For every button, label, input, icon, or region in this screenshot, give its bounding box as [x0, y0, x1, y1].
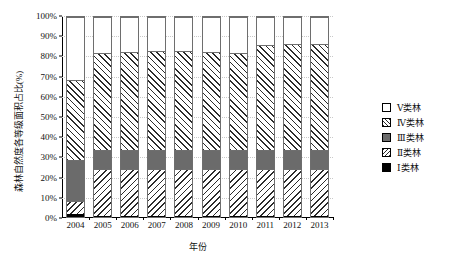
legend-swatch-s3	[382, 133, 391, 142]
bar-column[interactable]	[174, 16, 193, 218]
legend-swatch-s1	[382, 163, 391, 172]
bar-segment-s5	[121, 17, 138, 52]
bar-segment-s3	[148, 150, 165, 169]
legend-item[interactable]: Ⅴ类林	[382, 100, 424, 114]
bar-segment-s5	[67, 17, 84, 80]
stacked-bar-chart: 森林自然度各等级面积占比(%) 0%10%20%30%40%50%60%70%8…	[0, 0, 461, 279]
x-tick-label: 2008	[175, 220, 193, 230]
bar-segment-s1	[257, 216, 274, 217]
x-tick-mark	[225, 217, 226, 220]
x-tick-label: 2013	[310, 220, 328, 230]
x-tick-mark	[198, 217, 199, 220]
bar-column[interactable]	[256, 16, 275, 218]
bar-segment-s1	[94, 216, 111, 217]
x-tick-mark	[252, 217, 253, 220]
x-tick-label: 2012	[283, 220, 301, 230]
bar-series-group	[62, 16, 333, 218]
bar-segment-s3	[230, 150, 247, 169]
legend-label: Ⅴ类林	[397, 101, 422, 114]
bar-segment-s1	[175, 216, 192, 217]
bar-segment-s5	[148, 17, 165, 51]
legend-item[interactable]: Ⅰ类林	[382, 160, 424, 174]
x-tick-label: 2009	[202, 220, 220, 230]
legend-label: Ⅳ类林	[397, 116, 424, 129]
plot-area: 0%10%20%30%40%50%60%70%80%90%100% 200420…	[62, 16, 333, 218]
bar-segment-s4	[175, 51, 192, 150]
bar-segment-s5	[230, 17, 247, 53]
legend-label: Ⅱ类林	[397, 146, 421, 159]
bar-column[interactable]	[202, 16, 221, 218]
chart-legend: Ⅴ类林Ⅳ类林Ⅲ类林Ⅱ类林Ⅰ类林	[382, 100, 424, 175]
bar-column[interactable]	[93, 16, 112, 218]
bar-segment-s4	[311, 44, 328, 150]
bar-segment-s2	[148, 169, 165, 216]
y-axis-title: 森林自然度各等级面积占比(%)	[12, 22, 25, 242]
x-tick-label: 2004	[67, 220, 85, 230]
bar-segment-s3	[121, 150, 138, 169]
bar-segment-s4	[284, 44, 301, 150]
bar-segment-s4	[121, 52, 138, 150]
x-tick-label: 2010	[229, 220, 247, 230]
bar-segment-s4	[148, 51, 165, 150]
bar-segment-s5	[94, 17, 111, 53]
bar-segment-s5	[203, 17, 220, 52]
x-tick-mark	[170, 217, 171, 220]
bar-segment-s1	[121, 216, 138, 217]
bar-column[interactable]	[310, 16, 329, 218]
legend-swatch-s5	[382, 103, 391, 112]
bar-segment-s2	[230, 169, 247, 216]
x-tick-mark	[143, 217, 144, 220]
bar-segment-s2	[94, 169, 111, 216]
bar-segment-s3	[311, 150, 328, 169]
x-tick-mark	[306, 217, 307, 220]
bar-segment-s5	[175, 17, 192, 51]
bar-segment-s2	[311, 169, 328, 216]
bar-column[interactable]	[120, 16, 139, 218]
legend-label: Ⅰ类林	[397, 161, 419, 174]
x-tick-mark	[89, 217, 90, 220]
bar-segment-s1	[230, 216, 247, 217]
bar-column[interactable]	[283, 16, 302, 218]
x-tick-label: 2007	[148, 220, 166, 230]
x-tick-mark	[333, 217, 334, 220]
x-tick-label: 2006	[121, 220, 139, 230]
bar-segment-s2	[175, 169, 192, 216]
bar-segment-s2	[257, 169, 274, 216]
bar-segment-s5	[284, 17, 301, 44]
x-tick-mark	[116, 217, 117, 220]
legend-item[interactable]: Ⅲ类林	[382, 130, 424, 144]
bar-column[interactable]	[66, 16, 85, 218]
bar-segment-s3	[284, 150, 301, 169]
bar-segment-s4	[67, 80, 84, 160]
legend-label: Ⅲ类林	[397, 131, 424, 144]
bar-segment-s2	[203, 169, 220, 216]
legend-swatch-s4	[382, 118, 391, 127]
bar-segment-s2	[67, 201, 84, 214]
x-tick-label: 2005	[94, 220, 112, 230]
x-tick-mark	[279, 217, 280, 220]
bar-column[interactable]	[147, 16, 166, 218]
bar-column[interactable]	[229, 16, 248, 218]
bar-segment-s5	[257, 17, 274, 45]
bar-segment-s1	[203, 216, 220, 217]
bar-segment-s3	[94, 150, 111, 169]
bar-segment-s4	[230, 53, 247, 150]
x-axis-title: 年份	[62, 240, 333, 253]
bar-segment-s5	[311, 17, 328, 44]
bar-segment-s1	[148, 216, 165, 217]
bar-segment-s3	[175, 150, 192, 169]
x-tick-label: 2011	[256, 220, 274, 230]
bar-segment-s4	[94, 53, 111, 150]
bar-segment-s3	[67, 160, 84, 201]
bar-segment-s2	[284, 169, 301, 216]
legend-item[interactable]: Ⅱ类林	[382, 145, 424, 159]
bar-segment-s1	[284, 216, 301, 217]
legend-item[interactable]: Ⅳ类林	[382, 115, 424, 129]
bar-segment-s4	[203, 52, 220, 150]
bar-segment-s2	[121, 169, 138, 216]
bar-segment-s3	[203, 150, 220, 169]
bar-segment-s3	[257, 150, 274, 169]
legend-swatch-s2	[382, 148, 391, 157]
bar-segment-s1	[67, 214, 84, 217]
bar-segment-s4	[257, 45, 274, 150]
